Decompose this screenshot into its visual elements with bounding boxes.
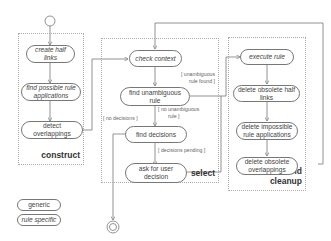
lane-title-construct: construct — [41, 150, 80, 160]
activity-ask-for-user-decision[interactable]: ask for user decision — [125, 163, 187, 183]
activity-delete-obsolete-overlappings[interactable]: delete obsolete overlappings — [236, 157, 298, 175]
guard-text: [ no unambiguous — [158, 106, 199, 113]
activity-delete-obsolete-half-links[interactable]: delete obsolete half links — [233, 85, 300, 102]
guard-decisions-pending: [ decisions pending ] — [158, 147, 205, 154]
activity-delete-impossible-rule-applications[interactable]: delete impossible rule applications — [236, 122, 298, 140]
legend-rule-specific: rule specific — [17, 214, 61, 226]
legend-generic: generic — [17, 199, 61, 211]
activity-detect-overlappings[interactable]: detect overlappings — [21, 121, 83, 139]
guard-no-unambiguous-rule: [ no unambiguous rule ] — [158, 106, 199, 119]
activity-execute-rule[interactable]: execute rule — [240, 49, 294, 65]
lane-title-execute-2: cleanup — [270, 176, 302, 186]
activity-check-context[interactable]: check context — [129, 50, 182, 67]
guard-unambiguous-rule-found: [ unambiguous rule found ] — [170, 71, 215, 84]
lane-title-select: select — [191, 168, 215, 178]
activity-find-decisions[interactable]: find decisions — [125, 126, 187, 143]
activity-create-half-links[interactable]: create half links — [26, 45, 75, 63]
guard-text: rule ] — [158, 113, 199, 120]
activity-find-possible-rule-applications[interactable]: find possible rule applications — [21, 83, 81, 101]
guard-no-decisions: [ no decisions ] — [103, 115, 138, 122]
guard-text: rule found ] — [170, 78, 215, 85]
activity-find-unambiguous-rule[interactable]: find unambiguous rule — [120, 87, 190, 106]
